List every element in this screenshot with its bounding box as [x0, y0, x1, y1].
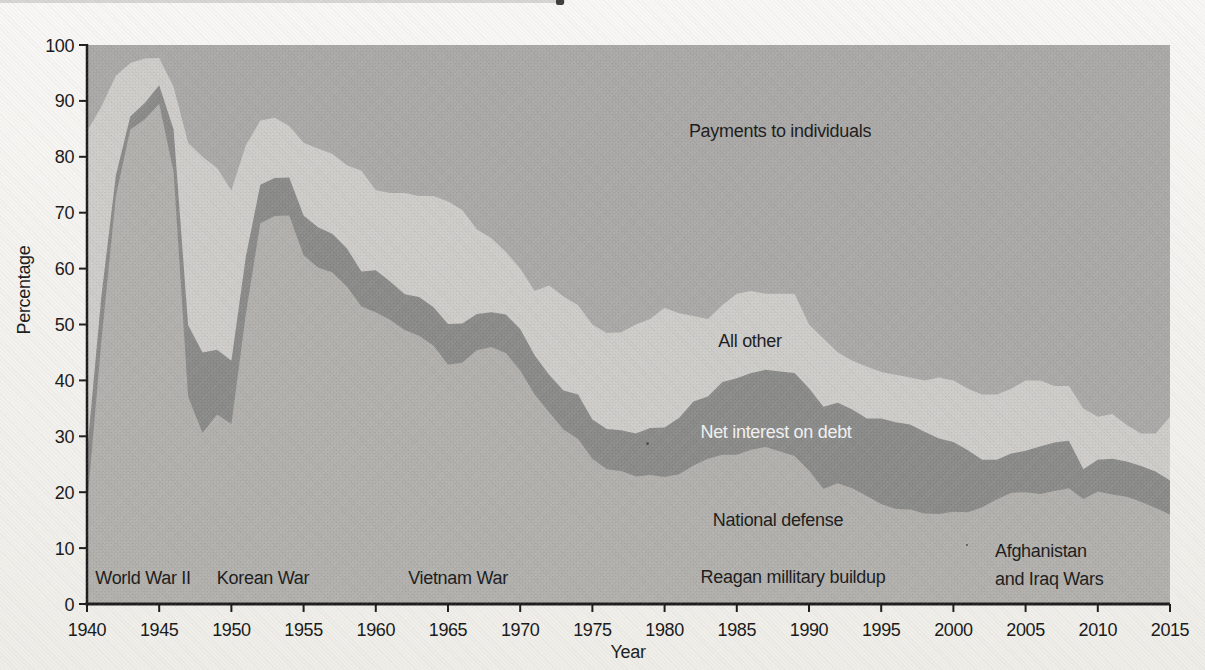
annotation-afghanistan-line2: and Iraq Wars	[995, 565, 1103, 593]
x-tick-label-1960: 1960	[357, 620, 396, 640]
x-axis-title: Year	[610, 642, 645, 663]
y-tick-label-30: 30	[55, 427, 75, 447]
y-tick-label-40: 40	[55, 371, 75, 391]
y-tick-label-10: 10	[55, 539, 75, 559]
x-tick-label-2015: 2015	[1151, 620, 1190, 640]
y-tick-label-60: 60	[55, 259, 75, 279]
series-label-net-interest-on-debt: Net interest on debt	[700, 422, 851, 443]
y-axis-title: Percentage	[14, 245, 35, 334]
x-tick-label-1985: 1985	[718, 620, 757, 640]
scan-speck	[646, 442, 649, 445]
scan-artifact-top-smudge	[0, 0, 565, 3]
annotation-afghanistan-iraq-wars: Afghanistan and Iraq Wars	[995, 537, 1103, 593]
x-tick-label-1945: 1945	[140, 620, 179, 640]
annotation-afghanistan-line1: Afghanistan	[995, 537, 1103, 565]
x-tick-label-1970: 1970	[501, 620, 540, 640]
x-tick-label-2005: 2005	[1006, 620, 1045, 640]
series-label-payments-to-individuals: Payments to individuals	[689, 121, 871, 142]
halftone-overlay	[87, 45, 1170, 604]
y-tick-label-70: 70	[55, 203, 75, 223]
y-tick-label-50: 50	[55, 315, 75, 335]
y-tick-label-20: 20	[55, 483, 75, 503]
annotation-korean-war: Korean War	[217, 568, 309, 589]
scanned-book-page: 0102030405060708090100194019451950195519…	[0, 0, 1205, 670]
scan-artifact-top-mark	[556, 0, 564, 5]
x-tick-label-1965: 1965	[429, 620, 468, 640]
y-tick-label-100: 100	[45, 36, 74, 56]
x-tick-label-2000: 2000	[934, 620, 973, 640]
x-tick-label-1975: 1975	[573, 620, 612, 640]
annotation-world-war-ii: World War II	[95, 568, 190, 589]
x-tick-label-1950: 1950	[212, 620, 251, 640]
annotation-vietnam-war: Vietnam War	[408, 568, 508, 589]
x-tick-label-1980: 1980	[645, 620, 684, 640]
series-label-national-defense: National defense	[713, 510, 843, 531]
y-tick-label-80: 80	[55, 147, 75, 167]
x-tick-label-1955: 1955	[284, 620, 323, 640]
series-label-all-other: All other	[718, 331, 781, 352]
x-tick-label-1990: 1990	[790, 620, 829, 640]
x-tick-label-2010: 2010	[1079, 620, 1118, 640]
scan-speck	[966, 544, 968, 546]
x-tick-label-1995: 1995	[862, 620, 901, 640]
y-tick-label-0: 0	[64, 595, 74, 615]
y-tick-label-90: 90	[55, 91, 75, 111]
annotation-reagan-buildup: Reagan millitary buildup	[701, 567, 886, 588]
x-tick-label-1940: 1940	[68, 620, 107, 640]
